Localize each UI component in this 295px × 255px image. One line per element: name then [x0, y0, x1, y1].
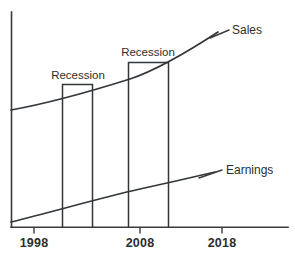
chart-background: [0, 0, 295, 255]
earnings-series-label: Earnings: [226, 163, 273, 177]
recession-1-label: Recession: [51, 69, 105, 81]
sales-series-label: Sales: [232, 23, 262, 37]
sales-earnings-line-chart: Sales Earnings Recession Recession 1998 …: [0, 0, 295, 255]
recession-2-label: Recession: [121, 46, 175, 58]
chart-caption-clipped: [0, 248, 295, 255]
chart-container: Sales Earnings Recession Recession 1998 …: [0, 0, 295, 255]
